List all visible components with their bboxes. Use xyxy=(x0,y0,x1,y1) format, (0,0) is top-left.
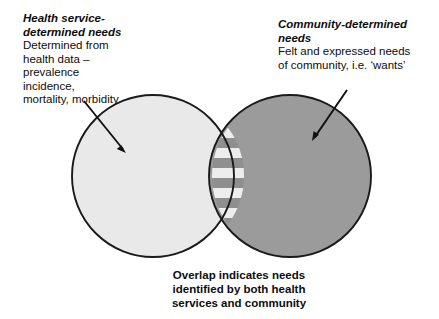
venn-diagram-figure: Health service- determined needs Determi… xyxy=(0,0,439,319)
label-health-service-body: Determined from health data – prevalence… xyxy=(23,39,155,107)
label-health-service-determined-needs: Health service- determined needs Determi… xyxy=(23,12,155,107)
label-community-body: Felt and expressed needs of community, i… xyxy=(278,45,436,72)
label-health-service-heading: Health service- determined needs xyxy=(23,12,155,39)
caption-overlap-indicates-needs: Overlap indicates needs identified by bo… xyxy=(148,268,330,310)
label-community-heading: Community-determined needs xyxy=(278,18,436,45)
label-community-determined-needs: Community-determined needs Felt and expr… xyxy=(278,18,436,72)
